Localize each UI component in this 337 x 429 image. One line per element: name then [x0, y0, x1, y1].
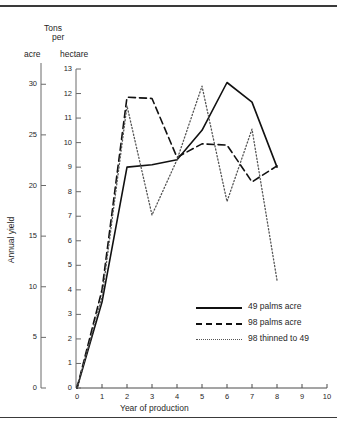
year-tick-label: 1 — [95, 393, 109, 401]
legend-swatch-dashed-icon — [196, 323, 242, 328]
hectare-tick-label: 2 — [58, 335, 72, 343]
legend-label: 49 palms acre — [248, 301, 301, 311]
acre-tick-label: 20 — [19, 182, 37, 190]
year-tick-label: 6 — [220, 393, 234, 401]
hectare-tick-label: 9 — [58, 163, 72, 171]
hectare-tick-label: 8 — [58, 188, 72, 196]
year-tick-label: 2 — [120, 393, 134, 401]
figure-container: Tons per acre hectare Annual yield Year … — [0, 0, 337, 429]
hectare-tick-label: 0 — [58, 384, 72, 392]
hectare-tick-label: 10 — [58, 139, 72, 147]
hectare-tick-label: 11 — [58, 114, 72, 122]
series-line — [77, 82, 277, 388]
acre-tick-label: 30 — [19, 80, 37, 88]
hectare-tick-label: 6 — [58, 237, 72, 245]
year-tick-label: 3 — [145, 393, 159, 401]
acre-tick-label: 10 — [19, 283, 37, 291]
acre-tick-label: 15 — [19, 232, 37, 240]
hectare-tick-label: 13 — [58, 65, 72, 73]
series-line — [77, 97, 277, 388]
acre-tick-label: 0 — [19, 384, 37, 392]
hectare-tick-label: 1 — [58, 359, 72, 367]
legend-label: 98 thinned to 49 — [248, 333, 309, 343]
hectare-tick-label: 12 — [58, 90, 72, 98]
year-tick-label: 9 — [295, 393, 309, 401]
series-lines — [77, 82, 277, 388]
year-tick-label: 7 — [245, 393, 259, 401]
year-tick-label: 0 — [70, 393, 84, 401]
acre-tick-label: 25 — [19, 131, 37, 139]
legend-swatch-dotted-icon — [196, 339, 242, 343]
legend-label: 98 palms acre — [248, 317, 301, 327]
series-line — [77, 86, 277, 388]
plot-canvas — [0, 0, 337, 429]
year-tick-label: 8 — [270, 393, 284, 401]
hectare-tick-label: 7 — [58, 212, 72, 220]
legend-swatch-solid-icon — [196, 307, 242, 312]
hectare-tick-label: 3 — [58, 310, 72, 318]
hectare-tick-label: 5 — [58, 261, 72, 269]
hectare-tick-label: 4 — [58, 286, 72, 294]
year-tick-label: 4 — [170, 393, 184, 401]
acre-tick-label: 5 — [19, 333, 37, 341]
year-tick-label: 5 — [195, 393, 209, 401]
year-tick-label: 10 — [320, 393, 334, 401]
